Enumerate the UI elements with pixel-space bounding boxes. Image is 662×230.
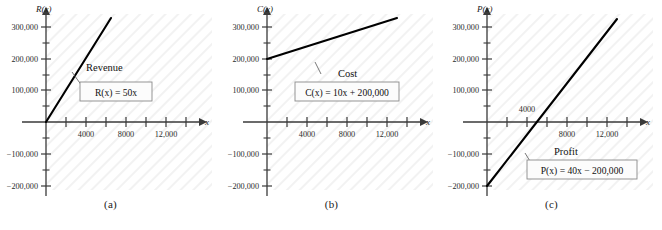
formula-label: R(x) = 50x bbox=[95, 87, 137, 99]
panel-caption-a: (a) bbox=[0, 198, 221, 210]
x-tick-label: 4000 bbox=[299, 130, 315, 139]
y-axis-title: R(x) bbox=[35, 4, 52, 14]
y-tick-label: 100,000 bbox=[452, 86, 479, 95]
plot-background bbox=[267, 14, 433, 190]
y-tick-label: −100,000 bbox=[7, 150, 38, 159]
three-panel-linear-functions-figure: 300,000 200,000 100,000 −100,000 −200,00… bbox=[0, 0, 662, 230]
x-axis-title: x bbox=[204, 117, 209, 127]
plot-background bbox=[46, 14, 212, 190]
x-axis-title: x bbox=[645, 117, 650, 127]
y-tick-label: 300,000 bbox=[232, 23, 259, 32]
y-tick-label: 100,000 bbox=[232, 86, 259, 95]
x-axis-title: x bbox=[425, 117, 430, 127]
chart-panel-profit: 300,000 200,000 100,000 −100,000 −200,00… bbox=[441, 0, 662, 230]
y-tick-label: −200,000 bbox=[7, 182, 38, 191]
y-tick-label: −200,000 bbox=[448, 182, 479, 191]
y-tick-label: 300,000 bbox=[11, 23, 38, 32]
x-tick-label: 4000 bbox=[519, 105, 535, 114]
x-tick-label: 8000 bbox=[339, 130, 355, 139]
x-tick-label: 12,000 bbox=[596, 130, 619, 139]
profit-chart-svg: 300,000 200,000 100,000 −100,000 −200,00… bbox=[441, 0, 662, 200]
formula-label: C(x) = 10x + 200,000 bbox=[305, 87, 389, 99]
curve-label-revenue: Revenue bbox=[86, 62, 123, 73]
panel-caption-c: (c) bbox=[441, 198, 662, 210]
x-tick-label: 4000 bbox=[78, 130, 94, 139]
chart-panel-cost: 300,000 200,000 100,000 −100,000 −200,00… bbox=[221, 0, 442, 230]
y-tick-label: 100,000 bbox=[11, 86, 38, 95]
x-tick-label: 12,000 bbox=[155, 130, 178, 139]
y-tick-label: 200,000 bbox=[232, 55, 259, 64]
y-tick-label: −200,000 bbox=[228, 182, 259, 191]
x-tick-label: 8000 bbox=[559, 130, 575, 139]
curve-label-cost: Cost bbox=[338, 68, 357, 79]
chart-panel-revenue: 300,000 200,000 100,000 −100,000 −200,00… bbox=[0, 0, 221, 230]
curve-label-profit: Profit bbox=[554, 146, 578, 157]
y-axis-title: C(x) bbox=[257, 4, 273, 14]
y-tick-label: −100,000 bbox=[448, 150, 479, 159]
y-tick-label: −100,000 bbox=[228, 150, 259, 159]
formula-label: P(x) = 40x − 200,000 bbox=[541, 165, 624, 177]
x-tick-label: 12,000 bbox=[376, 130, 399, 139]
panel-caption-b: (b) bbox=[221, 198, 442, 210]
revenue-chart-svg: 300,000 200,000 100,000 −100,000 −200,00… bbox=[0, 0, 221, 200]
y-axis-title: P(x) bbox=[476, 4, 493, 14]
y-tick-label: 200,000 bbox=[452, 55, 479, 64]
y-tick-label: 300,000 bbox=[452, 23, 479, 32]
cost-chart-svg: 300,000 200,000 100,000 −100,000 −200,00… bbox=[221, 0, 442, 200]
x-tick-label: 8000 bbox=[118, 130, 134, 139]
y-tick-label: 200,000 bbox=[11, 55, 38, 64]
